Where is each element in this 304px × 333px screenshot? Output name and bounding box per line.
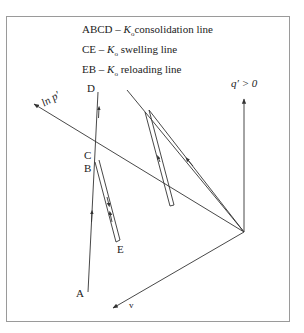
point-E: E	[117, 243, 124, 255]
point-D: D	[87, 82, 95, 94]
point-C: C	[84, 149, 91, 161]
stress-path	[127, 90, 244, 232]
point-B: B	[84, 162, 91, 174]
ln-p-axis	[34, 104, 244, 232]
point-A: A	[76, 287, 84, 299]
consolidation-line	[88, 92, 98, 292]
diagram-svg	[0, 0, 304, 333]
projected-swelling	[145, 112, 170, 206]
q-axis-label: q′ > 0	[231, 77, 257, 89]
v-axis	[113, 232, 244, 308]
reloading-line	[99, 160, 120, 240]
swelling-line	[95, 162, 116, 242]
v-axis-label: v	[129, 300, 134, 310]
